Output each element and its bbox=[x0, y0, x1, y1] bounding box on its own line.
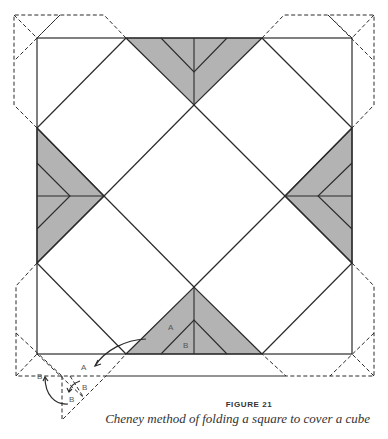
flap-creases bbox=[37, 38, 352, 354]
label-a: A bbox=[168, 323, 174, 332]
cube-folding-diagram: A B A B B B bbox=[0, 0, 388, 439]
figure-caption: Cheney method of folding a square to cov… bbox=[0, 411, 388, 427]
label-b-fold-2: B bbox=[82, 383, 87, 392]
figure-label: FIGURE 21 bbox=[0, 400, 388, 409]
label-a-target: A bbox=[81, 363, 87, 372]
label-b-fold-1: B bbox=[37, 372, 42, 381]
label-b: B bbox=[183, 341, 188, 350]
